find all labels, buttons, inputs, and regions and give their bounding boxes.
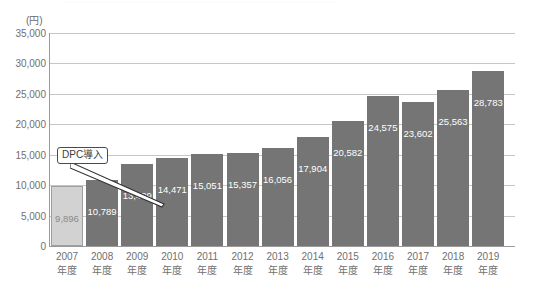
bar[interactable]: 23,602 [402,102,434,246]
bar-value-label: 24,575 [367,122,399,133]
y-axis-tick-label: 15,000 [2,149,46,160]
x-axis-tick-label: 2013年度 [259,250,297,278]
bar-value-label: 13,429 [121,190,153,201]
x-axis-year: 2018 [434,250,472,264]
bar-chart: (円) 35,00030,00025,00020,00015,00010,000… [0,0,536,294]
x-axis-year: 2016 [364,250,402,264]
x-axis-year-suffix: 年度 [224,264,262,278]
x-axis-year-suffix: 年度 [188,264,226,278]
bar-value-label: 10,789 [86,206,118,217]
x-axis-year-suffix: 年度 [434,264,472,278]
x-axis-year-suffix: 年度 [153,264,191,278]
y-axis-tick-label: 5,000 [2,210,46,221]
x-axis-year: 2009 [118,250,156,264]
bar-value-label: 17,904 [297,163,329,174]
annotation-dpc-introduction: DPC導入 [57,147,108,164]
y-axis-tick-label: 20,000 [2,119,46,130]
bar[interactable]: 20,582 [332,121,364,246]
x-axis-tick-label: 2011年度 [188,250,226,278]
bar[interactable]: 16,056 [262,148,294,246]
bar[interactable]: 9,896 [51,186,83,246]
bar-value-label: 14,471 [156,184,188,195]
bar[interactable]: 10,789 [86,180,118,246]
x-axis-year-suffix: 年度 [399,264,437,278]
y-axis-tick-label: 10,000 [2,180,46,191]
x-axis-year: 2013 [259,250,297,264]
bar[interactable]: 14,471 [156,158,188,246]
bar-value-label: 16,056 [262,174,294,185]
x-axis-year: 2017 [399,250,437,264]
x-axis-year-suffix: 年度 [83,264,121,278]
x-axis-tick-label: 2007年度 [48,250,86,278]
x-axis-year-suffix: 年度 [259,264,297,278]
x-axis-tick-label: 2018年度 [434,250,472,278]
x-axis-tick-labels: 2007年度2008年度2009年度2010年度2011年度2012年度2013… [49,250,515,292]
y-axis-tick-label: 0 [2,241,46,252]
bar[interactable]: 24,575 [367,96,399,246]
x-axis-year-suffix: 年度 [329,264,367,278]
x-axis-tick-label: 2019年度 [469,250,507,278]
x-axis-year-suffix: 年度 [118,264,156,278]
x-axis-year: 2008 [83,250,121,264]
x-axis-year-suffix: 年度 [469,264,507,278]
x-axis-tick-label: 2014年度 [294,250,332,278]
bar-series: 9,89610,78913,42914,47115,05115,35716,05… [49,33,515,246]
x-axis-tick-label: 2015年度 [329,250,367,278]
x-axis-tick-label: 2009年度 [118,250,156,278]
y-axis-tick-label: 25,000 [2,88,46,99]
y-axis-unit-label: (円) [26,12,43,27]
x-axis-tick-label: 2016年度 [364,250,402,278]
bar-value-label: 9,896 [52,213,82,224]
x-axis-tick-label: 2017年度 [399,250,437,278]
bar[interactable]: 28,783 [472,71,504,246]
bar-value-label: 23,602 [402,128,434,139]
x-axis-year-suffix: 年度 [294,264,332,278]
x-axis-year: 2014 [294,250,332,264]
top-rule [60,2,340,3]
bar[interactable]: 17,904 [297,137,329,246]
y-axis-tick-labels: 35,00030,00025,00020,00015,00010,0005,00… [0,33,46,246]
x-axis-tick-label: 2010年度 [153,250,191,278]
bar-value-label: 20,582 [332,147,364,158]
x-axis-year: 2007 [48,250,86,264]
bar[interactable]: 15,051 [191,154,223,246]
x-axis-year: 2012 [224,250,262,264]
x-axis-tick-label: 2008年度 [83,250,121,278]
x-axis-year: 2015 [329,250,367,264]
y-axis-tick-label: 30,000 [2,58,46,69]
x-axis-year-suffix: 年度 [364,264,402,278]
y-axis-tick-label: 35,000 [2,28,46,39]
bar[interactable]: 25,563 [437,90,469,246]
bar[interactable]: 15,357 [227,153,259,246]
x-axis-year-suffix: 年度 [48,264,86,278]
x-axis-year: 2019 [469,250,507,264]
bar-value-label: 25,563 [437,116,469,127]
bar-value-label: 15,051 [191,180,223,191]
x-axis-year: 2011 [188,250,226,264]
x-axis-year: 2010 [153,250,191,264]
bar[interactable]: 13,429 [121,164,153,246]
bar-value-label: 15,357 [227,179,259,190]
x-axis-tick-label: 2012年度 [224,250,262,278]
x-axis-line [49,246,515,247]
bar-value-label: 28,783 [472,97,504,108]
